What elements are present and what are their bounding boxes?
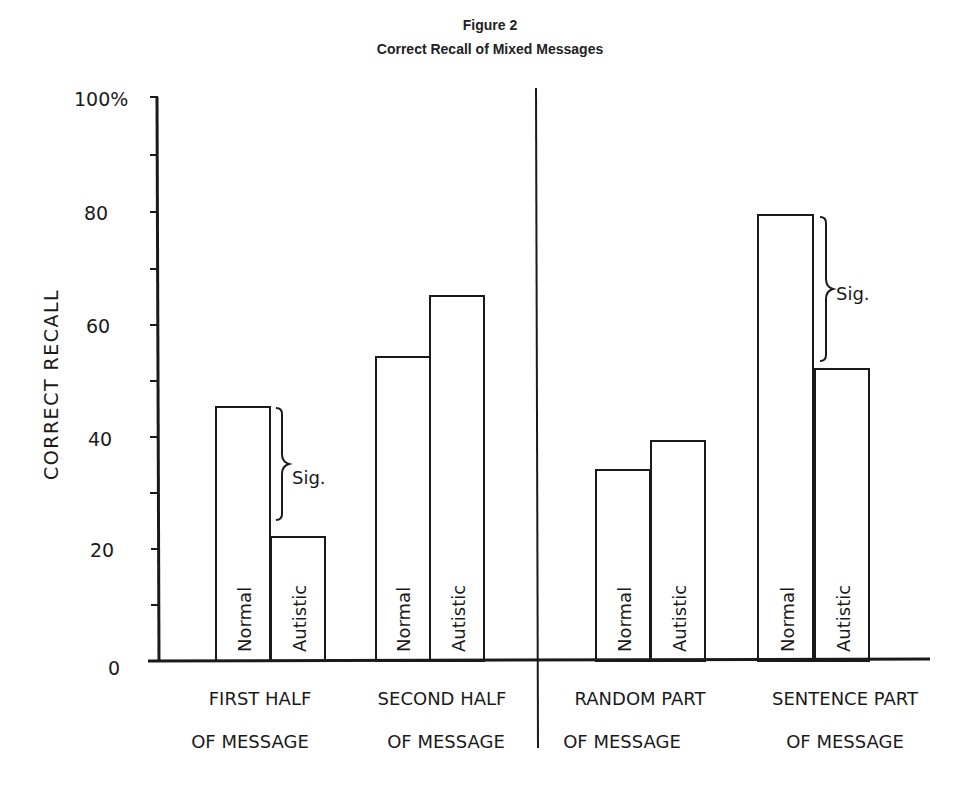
tick-label-20: 20 <box>90 539 114 561</box>
tick-label-0: 0 <box>108 657 120 679</box>
category-label-second-half-line2: OF MESSAGE <box>387 731 505 752</box>
bar-label-normal: Normal <box>234 587 255 652</box>
tick-label-40: 40 <box>88 428 112 450</box>
significance-bracket <box>276 408 289 520</box>
y-axis <box>157 97 159 662</box>
bar-label-autistic: Autistic <box>833 585 854 652</box>
category-label-random-part-line1: RANDOM PART <box>574 688 706 709</box>
bar-label-autistic: Autistic <box>289 585 310 652</box>
tick-label-100: 100% <box>74 88 128 110</box>
category-label-second-half-line1: SECOND HALF <box>378 688 507 709</box>
tick-label-80: 80 <box>84 202 108 224</box>
bar-chart: 0 20 40 60 80 100% CORRECT RECALL Normal… <box>0 0 980 792</box>
category-label-first-half-line1: FIRST HALF <box>209 688 312 709</box>
category-label-sentence-part-line1: SENTENCE PART <box>772 688 919 709</box>
bar-label-autistic: Autistic <box>669 585 690 652</box>
bar-label-normal: Normal <box>777 587 798 652</box>
category-label-sentence-part-line2: OF MESSAGE <box>786 731 904 752</box>
bar-label-normal: Normal <box>614 587 635 652</box>
significance-label: Sig. <box>836 283 870 304</box>
significance-bracket <box>820 217 833 361</box>
group-divider <box>536 88 538 748</box>
significance-label: Sig. <box>292 467 326 488</box>
bar-label-normal: Normal <box>393 587 414 652</box>
category-label-first-half-line2: OF MESSAGE <box>191 731 309 752</box>
category-label-random-part-line2: OF MESSAGE <box>563 731 681 752</box>
tick-label-60: 60 <box>86 315 110 337</box>
y-axis-label: CORRECT RECALL <box>40 289 62 480</box>
bar-label-autistic: Autistic <box>448 585 469 652</box>
